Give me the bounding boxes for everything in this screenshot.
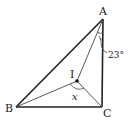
triangle-diagram: A B C I 23° x [0, 0, 133, 127]
label-a: A [98, 5, 108, 18]
angle-tick-a [100, 36, 101, 40]
segment-ci [77, 81, 102, 107]
angle-leader-a [101, 38, 107, 53]
incenter-point [75, 79, 79, 83]
label-c: C [103, 107, 111, 120]
segment-bi [16, 81, 77, 107]
side-ca [102, 19, 103, 107]
segment-ai [77, 19, 103, 81]
label-i: I [70, 68, 74, 81]
angle-a-value: 23° [108, 50, 124, 60]
side-ab [16, 19, 103, 107]
label-b: B [5, 102, 13, 115]
angle-x-label: x [72, 91, 78, 102]
